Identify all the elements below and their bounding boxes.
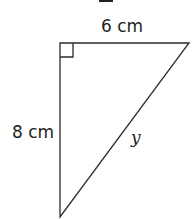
triangle-diagram: 6 cm 8 cm y (0, 0, 193, 219)
cropped-glyph-fragment (99, 0, 113, 2)
left-side-label: 8 cm (12, 122, 54, 142)
hypotenuse-label: y (130, 127, 141, 147)
top-side-label: 6 cm (101, 16, 143, 36)
right-angle-marker (60, 43, 73, 57)
right-triangle (60, 43, 189, 217)
